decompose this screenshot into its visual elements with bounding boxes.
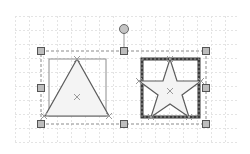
diagram-canvas[interactable] [0,0,250,154]
triangle-path[interactable] [45,59,109,116]
resize-handle-top-right[interactable] [203,48,210,55]
resize-handle-bottom-right[interactable] [203,121,210,128]
star-shape[interactable] [136,56,204,120]
triangle-shape[interactable] [41,56,112,119]
resize-handle-bottom[interactable] [121,121,128,128]
resize-handle-right[interactable] [203,85,210,92]
diagram-svg [0,0,250,154]
resize-handle-left[interactable] [38,85,45,92]
resize-handle-bottom-left[interactable] [38,121,45,128]
rotate-handle-icon[interactable] [120,25,129,34]
resize-handle-top-left[interactable] [38,48,45,55]
resize-handle-top[interactable] [121,48,128,55]
